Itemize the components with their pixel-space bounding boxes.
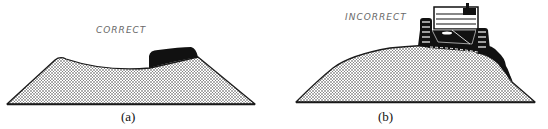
bulldozer-icon xyxy=(418,3,490,54)
caption-a: (a) xyxy=(121,109,135,124)
annotation-correct: CORRECT xyxy=(96,25,147,35)
caption-b: (b) xyxy=(378,109,393,124)
panel-b: INCORRECT xyxy=(296,3,535,124)
stockpile-figure: CORRECT (a) INCORRECT xyxy=(0,0,548,129)
right-track xyxy=(476,28,488,54)
stockpile-correct xyxy=(7,57,255,104)
panel-a: CORRECT (a) xyxy=(7,25,255,124)
left-track xyxy=(420,18,432,46)
annotation-incorrect: INCORRECT xyxy=(345,12,407,22)
